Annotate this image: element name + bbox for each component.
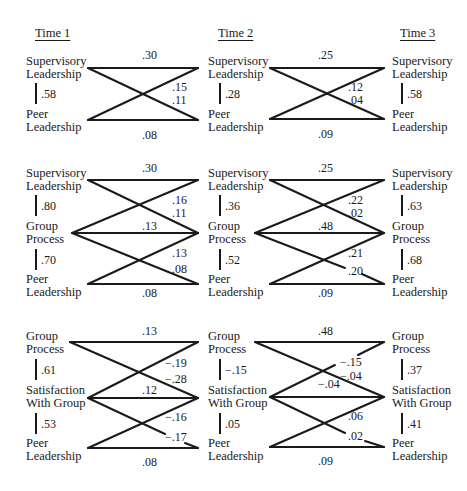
panel2-t2t3-middle: .48 xyxy=(318,220,333,232)
node-line: Leadership xyxy=(26,121,82,134)
panel2-t1t2-cross-a: .16 xyxy=(172,194,187,206)
synchronous-bar xyxy=(401,83,403,104)
panel3-t2t3-top: .48 xyxy=(318,325,333,337)
panel3-t2-group-process: Group Process xyxy=(208,330,246,356)
panel3-t1t2-cross-c: −.16 xyxy=(165,411,187,423)
panel2-t1-sync-2: .70 xyxy=(41,254,56,266)
panel1-t1t2-bottom: .08 xyxy=(142,129,157,141)
panel3-t1t2-top: .13 xyxy=(142,325,157,337)
panel1-t2-sync-1: .28 xyxy=(225,88,240,100)
panel3-t3-peer-leadership: Peer Leadership xyxy=(392,437,448,463)
node-line: Leadership xyxy=(392,68,452,81)
panel3-t2-peer-leadership: Peer Leadership xyxy=(208,437,264,463)
node-line: Leadership xyxy=(208,121,264,134)
panel2-t1t2-top: .30 xyxy=(142,162,157,174)
panel1-t2t3-bottom: .09 xyxy=(318,128,333,140)
node-line: Process xyxy=(392,233,430,246)
panel1-t2-peer-leadership: Peer Leadership xyxy=(208,108,264,134)
panel3-t3-sync-2: .41 xyxy=(407,418,422,430)
panel2-t2-peer-leadership: Peer Leadership xyxy=(208,273,264,299)
panel3-t1-satisfaction-with-group: Satisfaction With Group xyxy=(26,384,86,410)
node-line: Leadership xyxy=(208,450,264,463)
panel2-t1-sync-1: .80 xyxy=(41,200,56,212)
node-line: Leadership xyxy=(26,68,86,81)
panel2-t2-sync-1: .36 xyxy=(225,200,240,212)
node-line: Leadership xyxy=(208,286,264,299)
synchronous-bar xyxy=(401,195,403,216)
panel3-t1-sync-1: .61 xyxy=(41,364,56,376)
panel1-t3-peer-leadership: Peer Leadership xyxy=(392,108,448,134)
panel2-t2t3-cross-b: .02 xyxy=(348,207,363,219)
panel2-t3-sync-2: .68 xyxy=(407,254,422,266)
panel2-t1t2-cross-b: .11 xyxy=(172,207,187,219)
panel1-t2-supervisory-leadership: Supervisory Leadership xyxy=(208,55,268,81)
node-line: Leadership xyxy=(208,180,268,193)
synchronous-bar xyxy=(35,413,37,434)
node-line: Leadership xyxy=(392,180,452,193)
node-line: Process xyxy=(208,343,246,356)
synchronous-bar xyxy=(35,359,37,380)
node-line: Leadership xyxy=(26,450,82,463)
panel2-t2t3-cross-c: .21 xyxy=(348,247,363,259)
panel2-t1-group-process: Group Process xyxy=(26,220,64,246)
panel1-t2t3-cross-a: .12 xyxy=(348,81,363,93)
panel3-t2t3-cross-c: .06 xyxy=(348,410,363,422)
synchronous-bar xyxy=(219,413,221,434)
panel1-t1t2-cross-b: .11 xyxy=(172,94,187,106)
panel3-t2t3-cross-d: .02 xyxy=(348,430,363,442)
node-line: Process xyxy=(208,233,246,246)
synchronous-bar xyxy=(219,359,221,380)
node-line: Leadership xyxy=(26,180,86,193)
panel1-t1-supervisory-leadership: Supervisory Leadership xyxy=(26,55,86,81)
panel1-t3-supervisory-leadership: Supervisory Leadership xyxy=(392,55,452,81)
panel3-t1t2-cross-a: −.19 xyxy=(165,357,187,369)
panel3-t2t3-bottom: .09 xyxy=(318,455,333,467)
node-line: With Group xyxy=(208,397,268,410)
panel2-t1t2-middle: .13 xyxy=(142,220,157,232)
node-line: Process xyxy=(26,343,64,356)
synchronous-bar xyxy=(401,413,403,434)
panel2-t2t3-top: .25 xyxy=(318,162,333,174)
panel2-t3-supervisory-leadership: Supervisory Leadership xyxy=(392,167,452,193)
panel3-t1-group-process: Group Process xyxy=(26,330,64,356)
node-line: Leadership xyxy=(208,68,268,81)
panel2-t1t2-cross-c: .13 xyxy=(172,247,187,259)
panel1-t2t3-top: .25 xyxy=(318,49,333,61)
node-line: Leadership xyxy=(392,450,448,463)
synchronous-bar xyxy=(35,83,37,104)
panel3-t1t2-cross-b: −.28 xyxy=(165,373,187,385)
panel3-paths-t2-t3 xyxy=(255,342,384,447)
panel2-t2t3-cross-a: .22 xyxy=(348,194,363,206)
panel2-t3-group-process: Group Process xyxy=(392,220,430,246)
node-line: With Group xyxy=(392,397,452,410)
panel2-t3-peer-leadership: Peer Leadership xyxy=(392,273,448,299)
node-line: Process xyxy=(392,343,430,356)
panel2-t2-supervisory-leadership: Supervisory Leadership xyxy=(208,167,268,193)
synchronous-bar xyxy=(35,249,37,270)
panel3-t1-sync-2: .53 xyxy=(41,418,56,430)
panel2-t3-sync-1: .63 xyxy=(407,200,422,212)
panel3-t2-satisfaction-with-group: Satisfaction With Group xyxy=(208,384,268,410)
node-line: Leadership xyxy=(392,286,448,299)
node-line: Leadership xyxy=(392,121,448,134)
panel1-t3-sync-1: .58 xyxy=(407,88,422,100)
panel3-t2t3-cross-b: −.04 xyxy=(340,370,362,382)
panel2-t1t2-bottom: .08 xyxy=(142,287,157,299)
synchronous-bar xyxy=(219,249,221,270)
panel1-t1t2-top: .30 xyxy=(142,49,157,61)
panel1-paths-t2-t3 xyxy=(270,68,384,119)
panel2-t1t2-cross-d: .08 xyxy=(172,263,187,275)
panel2-t2-group-process: Group Process xyxy=(208,220,246,246)
panel3-t1t2-middle: .12 xyxy=(142,384,157,396)
synchronous-bar xyxy=(219,195,221,216)
panel2-t1-peer-leadership: Peer Leadership xyxy=(26,273,82,299)
panel2-t2t3-cross-d: .20 xyxy=(348,265,363,277)
panel3-t1-peer-leadership: Peer Leadership xyxy=(26,437,82,463)
panel3-t2-sync-1: −.15 xyxy=(225,364,247,376)
node-line: Leadership xyxy=(26,286,82,299)
panel3-t3-sync-1: .37 xyxy=(407,364,422,376)
synchronous-bar xyxy=(219,83,221,104)
synchronous-bar xyxy=(401,249,403,270)
panel2-t2t3-bottom: .09 xyxy=(318,287,333,299)
panel1-t1-sync-1: .58 xyxy=(41,88,56,100)
